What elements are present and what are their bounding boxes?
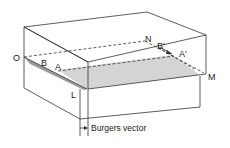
label-O: O xyxy=(13,53,20,63)
label-B: B xyxy=(41,58,47,68)
label-A-prime: A' xyxy=(179,49,187,59)
label-B-prime: B' xyxy=(157,41,165,51)
dislocation-diagram: O B A N B' A' M L Burgers vector xyxy=(0,0,230,148)
lower-front-bottom xyxy=(80,107,200,119)
label-A: A xyxy=(55,62,61,72)
b-prime-arrowhead xyxy=(166,50,172,54)
label-L: L xyxy=(71,90,76,100)
label-N: N xyxy=(145,34,152,44)
top-ridge xyxy=(24,27,88,62)
burgers-vector-caption: Burgers vector xyxy=(91,123,146,133)
burgers-arrowhead-icon xyxy=(84,126,88,130)
label-M: M xyxy=(208,72,216,82)
dashed-ON xyxy=(24,41,145,57)
